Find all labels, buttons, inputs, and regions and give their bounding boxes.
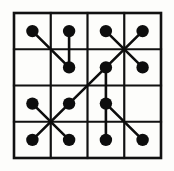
node-dot-r1c3 [100,25,112,37]
node-dot-r4c1 [26,134,38,146]
node-dot-r4c4 [136,134,148,146]
node-dot-r4c2 [63,134,75,146]
node-dot-r3c1 [26,97,38,109]
node-dot-r1c2 [63,25,75,37]
node-dot-r2c4 [136,61,148,73]
node-dot-r4c3 [100,134,112,146]
node-dot-r1c1 [26,25,38,37]
puzzle-canvas [0,0,174,171]
node-dot-r3c3 [100,97,112,109]
node-dot-r2c2 [63,61,75,73]
node-dot-r1c4 [136,25,148,37]
node-dot-r2c3 [100,61,112,73]
dot-grid-puzzle-figure [0,0,174,171]
node-dot-r3c2 [63,97,75,109]
